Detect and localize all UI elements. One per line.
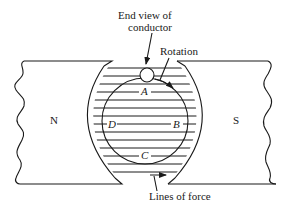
position-b-label: B [173,118,180,130]
north-pole-label: N [50,114,58,126]
lines-of-force-label: Lines of force [149,190,211,202]
lines-of-force-pointer [154,176,157,191]
conductor-label-line2: conductor [128,21,172,33]
position-c-label: C [141,149,149,161]
south-pole-magnet [168,61,276,184]
north-pole-magnet [15,61,122,184]
position-d-label: D [107,118,116,130]
south-pole-label: S [233,114,239,126]
generator-diagram: End view of conductor Rotation Lines of … [0,0,292,211]
conductor-pointer [146,33,152,64]
position-a-label: A [140,85,148,97]
conductor-icon [140,68,154,82]
rotation-pointer [160,58,169,80]
rotation-label: Rotation [160,45,198,57]
conductor-label-line1: End view of [118,9,172,21]
